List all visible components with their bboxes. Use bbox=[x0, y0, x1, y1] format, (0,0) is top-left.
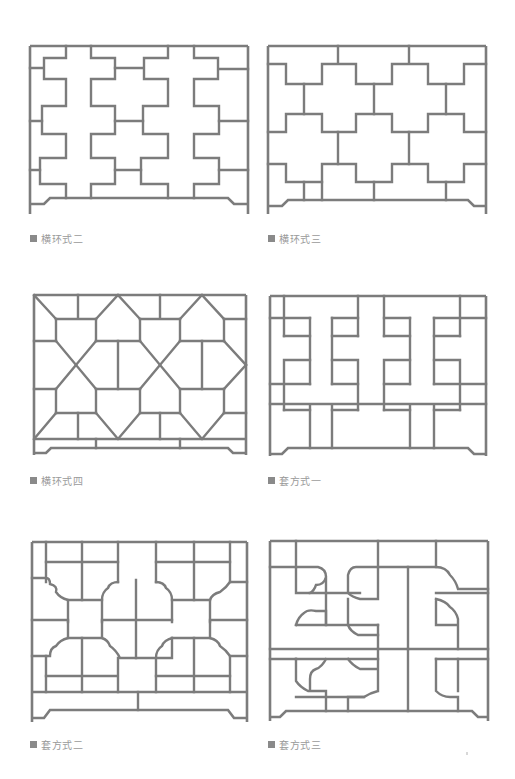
lattice-figure-2 bbox=[268, 46, 486, 216]
scan-speck bbox=[466, 752, 468, 755]
lattice-pattern-heng-huan-4 bbox=[34, 295, 246, 459]
lattice-pattern-heng-huan-2 bbox=[30, 46, 248, 216]
lattice-figure-4 bbox=[270, 296, 486, 458]
lattice-pattern-tao-fang-3 bbox=[270, 541, 488, 723]
square-bullet-icon bbox=[268, 741, 275, 748]
lattice-figure-3 bbox=[34, 295, 246, 459]
figure-caption: 套方式一 bbox=[268, 473, 321, 488]
figure-caption: 套方式二 bbox=[30, 737, 83, 752]
caption-text: 横环式二 bbox=[41, 231, 83, 246]
caption-text: 套方式一 bbox=[279, 473, 321, 488]
lattice-pattern-tao-fang-2 bbox=[32, 542, 247, 724]
figure-caption: 套方式三 bbox=[268, 737, 321, 752]
lattice-figure-1 bbox=[30, 46, 248, 216]
caption-text: 套方式三 bbox=[279, 737, 321, 752]
square-bullet-icon bbox=[30, 235, 37, 242]
lattice-pattern-heng-huan-3 bbox=[268, 46, 486, 216]
figure-caption: 横环式四 bbox=[30, 473, 83, 488]
caption-text: 套方式二 bbox=[41, 737, 83, 752]
figure-caption: 横环式二 bbox=[30, 231, 83, 246]
square-bullet-icon bbox=[268, 235, 275, 242]
caption-text: 横环式四 bbox=[41, 473, 83, 488]
figure-caption: 横环式三 bbox=[268, 231, 321, 246]
square-bullet-icon bbox=[30, 477, 37, 484]
square-bullet-icon bbox=[30, 741, 37, 748]
lattice-figure-6 bbox=[270, 541, 488, 723]
lattice-pattern-tao-fang-1 bbox=[270, 296, 486, 458]
square-bullet-icon bbox=[268, 477, 275, 484]
lattice-figure-5 bbox=[32, 542, 247, 724]
caption-text: 横环式三 bbox=[279, 231, 321, 246]
